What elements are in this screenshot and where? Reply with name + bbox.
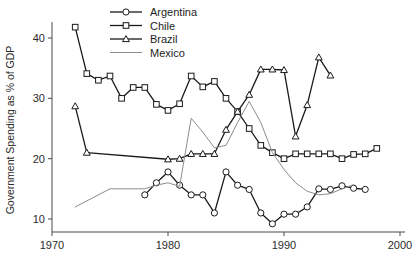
chart-series-layer (72, 24, 380, 227)
data-point-marker (96, 77, 102, 83)
data-point-marker (142, 192, 148, 198)
data-point-marker (246, 91, 253, 97)
data-point-marker (258, 143, 264, 149)
data-point-marker (72, 24, 78, 30)
data-point-marker (246, 186, 252, 192)
data-point-marker (269, 221, 275, 227)
data-point-marker (304, 102, 311, 108)
data-point-marker (130, 85, 136, 91)
y-tick-label: 10 (33, 213, 45, 225)
legend-entry-chile: Chile (110, 20, 175, 32)
x-tick-label: 1970 (40, 239, 64, 251)
data-point-marker (304, 204, 310, 210)
legend-entry-argentina: Argentina (110, 6, 198, 18)
legend-label: Brazil (150, 33, 178, 45)
data-point-marker (362, 151, 368, 157)
y-axis-title: Government Spending as % of GDP (4, 46, 16, 215)
data-point-marker (328, 151, 334, 157)
data-point-marker (327, 72, 334, 78)
data-point-marker (374, 146, 380, 152)
legend-label: Chile (150, 20, 175, 32)
data-point-marker (327, 186, 333, 192)
data-point-marker (351, 185, 357, 191)
data-point-marker (362, 186, 368, 192)
y-tick-label: 40 (33, 32, 45, 44)
data-point-marker (211, 210, 217, 216)
legend-label: Mexico (150, 47, 185, 59)
data-point-marker (315, 54, 322, 60)
series-argentina (142, 169, 369, 227)
series-brazil (72, 54, 334, 162)
data-point-marker (154, 102, 160, 108)
data-point-marker (223, 96, 229, 102)
data-point-marker (304, 151, 310, 157)
data-point-marker (188, 192, 194, 198)
data-point-marker (212, 79, 218, 85)
data-point-marker (119, 96, 125, 102)
data-point-marker (165, 108, 171, 114)
x-tick-label: 2000 (388, 239, 412, 251)
data-point-marker (316, 151, 322, 157)
series-line-chile (75, 27, 377, 159)
legend-entry-mexico: Mexico (110, 47, 185, 59)
data-point-marker (223, 169, 229, 175)
data-point-marker (223, 126, 230, 132)
data-point-marker (123, 9, 129, 15)
data-point-marker (200, 192, 206, 198)
data-point-marker (84, 71, 90, 77)
data-point-marker (281, 211, 287, 217)
data-point-marker (293, 211, 299, 217)
chart-container: 102030401970198019902000 ArgentinaChileB… (0, 0, 419, 263)
line-chart-plot: 102030401970198019902000 ArgentinaChileB… (0, 0, 419, 263)
data-point-marker (316, 186, 322, 192)
data-point-marker (293, 151, 299, 157)
legend-label: Argentina (150, 6, 198, 18)
data-point-marker (177, 101, 183, 107)
series-line-brazil (75, 57, 330, 159)
chart-axis-labels: Government Spending as % of GDP (4, 46, 16, 215)
data-point-marker (339, 156, 345, 162)
data-point-marker (72, 103, 79, 109)
data-point-marker (235, 182, 241, 188)
legend-entry-brazil: Brazil (110, 33, 178, 45)
data-point-marker (165, 169, 171, 175)
data-point-marker (246, 126, 252, 132)
data-point-marker (258, 210, 264, 216)
series-line-argentina (145, 172, 365, 224)
data-point-marker (123, 23, 129, 29)
data-point-marker (107, 73, 113, 79)
x-tick-label: 1980 (156, 239, 180, 251)
data-point-marker (351, 152, 357, 158)
data-point-marker (142, 85, 148, 91)
data-point-marker (188, 73, 194, 79)
x-tick-label: 1990 (272, 239, 296, 251)
chart-legend: ArgentinaChileBrazilMexico (110, 6, 198, 59)
y-tick-label: 20 (33, 153, 45, 165)
data-point-marker (292, 133, 299, 139)
data-point-marker (200, 84, 206, 90)
y-tick-label: 30 (33, 92, 45, 104)
data-point-marker (281, 156, 287, 162)
series-chile (72, 24, 379, 161)
